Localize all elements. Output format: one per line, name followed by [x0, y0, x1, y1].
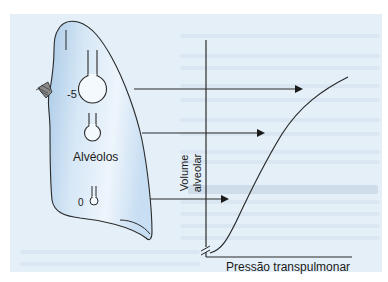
base-pressure-label: 0: [78, 197, 84, 208]
apex-pressure-label: -5: [67, 88, 77, 100]
alveolos-label: Alvéolos: [73, 150, 118, 164]
y-axis-label-line1: Volume: [178, 128, 191, 218]
arrow-apex: [134, 85, 303, 93]
y-axis-label-line2: alveolar: [191, 128, 204, 218]
y-axis-label: Volume alveolar: [178, 128, 204, 218]
x-axis-label: Pressão transpulmonar: [226, 260, 350, 274]
pressure-volume-curve: [210, 77, 348, 253]
